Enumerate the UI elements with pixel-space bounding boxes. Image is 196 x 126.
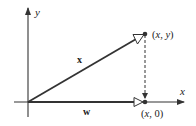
point-tip-dot [143, 32, 148, 37]
vector-x-label: x [77, 54, 82, 65]
vector-projection-diagram: y x x w (x, y) (x, 0) [0, 0, 196, 126]
vector-w-label: w [83, 106, 91, 117]
point-foot-label: (x, 0) [141, 108, 164, 120]
vector-w-arrowhead-icon [134, 98, 143, 107]
vector-x-line [28, 39, 137, 103]
point-foot-dot [143, 100, 148, 105]
y-axis-label: y [34, 6, 40, 18]
point-tip-label: (x, y) [152, 29, 174, 41]
x-axis-label: x [179, 85, 185, 97]
